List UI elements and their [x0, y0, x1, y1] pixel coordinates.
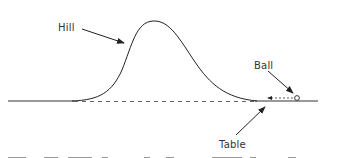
hill-pointer-arrow — [82, 29, 124, 43]
table-pointer-arrow — [236, 107, 265, 135]
hill-table-diagram — [0, 0, 346, 158]
ball-icon — [295, 96, 300, 101]
figure-caption-clipped — [6, 153, 336, 158]
hill-curve — [72, 21, 257, 101]
ball-pointer-arrow — [268, 71, 293, 93]
hill-label: Hill — [58, 22, 75, 33]
table-label: Table — [219, 139, 246, 150]
ball-label: Ball — [254, 60, 273, 71]
